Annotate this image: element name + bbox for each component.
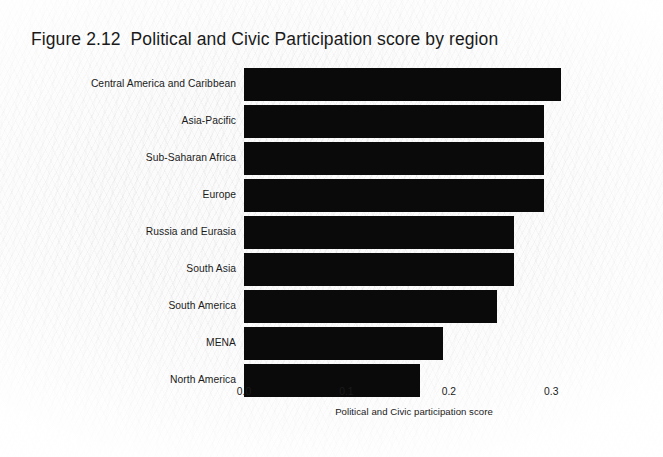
bar-europe — [244, 179, 584, 212]
y-axis-label: Russia and Eurasia — [0, 226, 236, 237]
y-axis-label: MENA — [0, 337, 236, 348]
bar-rect — [244, 253, 514, 286]
bar-sub-saharan-africa — [244, 142, 584, 175]
y-axis-label: Asia-Pacific — [0, 115, 236, 126]
plot-area — [244, 68, 584, 383]
bar-rect — [244, 179, 544, 212]
y-axis-label: South America — [0, 300, 236, 311]
bar-russia-and-eurasia — [244, 216, 584, 249]
y-axis-category-labels: Central America and CaribbeanAsia-Pacifi… — [0, 68, 236, 383]
y-axis-label: Europe — [0, 189, 236, 200]
bar-mena — [244, 327, 584, 360]
chart-title: Figure 2.12 Political and Civic Particip… — [31, 27, 498, 51]
bar-rect — [244, 327, 443, 360]
x-axis-tick: 0.0 — [237, 386, 251, 397]
y-axis-label: South Asia — [0, 263, 236, 274]
x-axis-title: Political and Civic participation score — [244, 406, 584, 417]
bar-asia-pacific — [244, 105, 584, 138]
x-axis-tick: 0.3 — [544, 386, 558, 397]
bar-south-asia — [244, 253, 584, 286]
bar-rect — [244, 142, 544, 175]
x-axis-tick-labels: 0.00.10.20.3 — [0, 386, 663, 402]
x-axis-tick: 0.2 — [442, 386, 456, 397]
bar-rect — [244, 105, 544, 138]
bar-central-america-and-caribbean — [244, 68, 584, 101]
bar-rect — [244, 290, 497, 323]
x-axis-tick: 0.1 — [339, 386, 353, 397]
bars-layer — [244, 68, 584, 383]
y-axis-label: Sub-Saharan Africa — [0, 152, 236, 163]
y-axis-label: North America — [0, 374, 236, 385]
bar-rect — [244, 68, 561, 101]
bar-rect — [244, 216, 514, 249]
figure-container: Figure 2.12 Political and Civic Particip… — [0, 0, 663, 457]
bar-south-america — [244, 290, 584, 323]
y-axis-label: Central America and Caribbean — [0, 78, 236, 89]
